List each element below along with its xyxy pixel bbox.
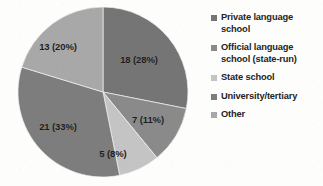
legend-item[interactable]: State school (211, 72, 321, 84)
pie-slice-data-label: 7 (11%) (132, 115, 164, 125)
legend-swatch-square-icon (211, 45, 217, 51)
legend-swatch-square-icon (211, 75, 217, 81)
pie-plot-area: 18 (28%)7 (11%)5 (8%)21 (33%)13 (20%) (0, 0, 205, 186)
legend-swatch-square-icon (211, 94, 217, 100)
legend-swatch-square-icon (211, 15, 217, 21)
legend-item[interactable]: Official language school (state-run) (211, 42, 321, 65)
pie-slice-data-label: 21 (33%) (39, 122, 77, 132)
legend-item-label: Other (221, 109, 245, 121)
legend-item-label: Official language school (state-run) (221, 42, 321, 65)
legend-item[interactable]: Private language school (211, 12, 321, 35)
legend-item-label: Private language school (221, 12, 321, 35)
legend-item[interactable]: Other (211, 109, 321, 121)
pie-chart-figure: 18 (28%)7 (11%)5 (8%)21 (33%)13 (20%) Pr… (0, 0, 323, 186)
legend-item[interactable]: University/tertiary (211, 91, 321, 103)
legend-item-label: State school (221, 72, 274, 84)
legend-item-label: University/tertiary (221, 91, 297, 103)
pie-slice-data-label: 18 (28%) (120, 55, 158, 65)
legend-swatch-square-icon (211, 112, 217, 118)
pie-slice-data-label: 13 (20%) (39, 42, 77, 52)
pie-slice-data-label: 5 (8%) (99, 149, 126, 159)
chart-legend: Private language schoolOfficial language… (211, 12, 321, 128)
